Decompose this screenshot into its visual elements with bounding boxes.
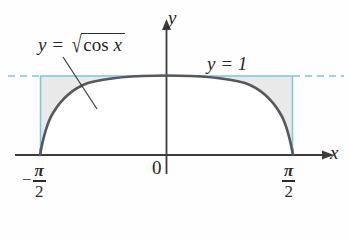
radical-sign: √ bbox=[72, 33, 82, 57]
tick-label-negative-pi-over-2: − π 2 bbox=[22, 162, 46, 200]
fraction-numerator: π bbox=[282, 162, 295, 179]
origin-label: 0 bbox=[152, 158, 162, 177]
radicand: cos x bbox=[81, 35, 124, 54]
minus-sign: − bbox=[22, 170, 32, 190]
curve-equation-label: y = √cos x bbox=[38, 34, 124, 55]
line-equation-label: y = 1 bbox=[207, 54, 247, 73]
y-axis-label: y bbox=[168, 8, 176, 27]
square-root-expression: √cos x bbox=[69, 34, 124, 55]
x-axis-label: x bbox=[330, 143, 338, 162]
cos-function-name: cos bbox=[83, 34, 108, 55]
fraction-pi-over-2: π 2 bbox=[33, 162, 46, 200]
fraction-pi-over-2: π 2 bbox=[282, 162, 295, 200]
curve-equation-lhs: y = bbox=[38, 34, 64, 55]
figure-canvas: y = √cos x y = 1 y x 0 − π 2 π 2 bbox=[0, 0, 351, 241]
radicand-variable: x bbox=[113, 34, 121, 55]
tick-label-pi-over-2: π 2 bbox=[282, 162, 295, 200]
fraction-numerator: π bbox=[33, 162, 46, 179]
fraction-denominator: 2 bbox=[282, 183, 295, 200]
fraction-denominator: 2 bbox=[33, 183, 46, 200]
